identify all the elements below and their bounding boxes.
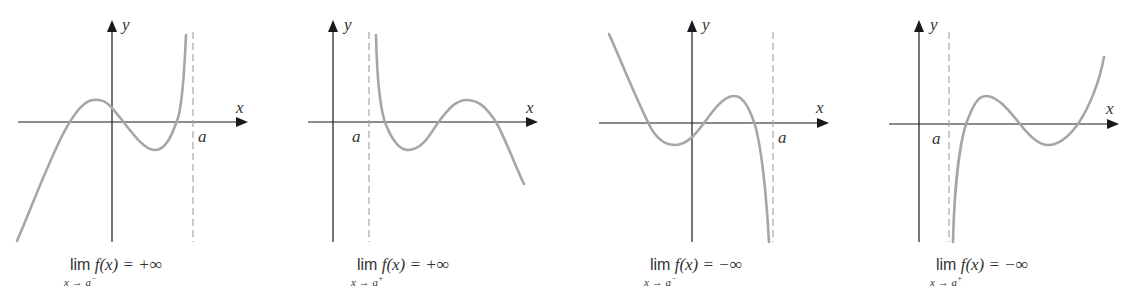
x-label: x [525,98,534,117]
caption-3: lim x → a− f(x) = −∞ [650,255,742,275]
caption-4: lim x → a+ f(x) = −∞ [936,255,1028,275]
a-label: a [198,127,207,146]
function-curve [17,35,186,241]
lim-text: lim [936,256,956,273]
a-label: a [778,128,787,147]
limit-expression: f(x) = −∞ [961,255,1028,274]
y-axis-arrow-icon [107,20,117,32]
panel-1: y x a [17,15,248,242]
caption-1: lim x → a− f(x) = +∞ [70,255,162,275]
limit-expression: f(x) = −∞ [675,255,742,274]
x-axis-arrow-icon [526,117,538,127]
limit-expression: f(x) = +∞ [382,255,449,274]
x-axis-arrow-icon [1107,119,1119,129]
y-label: y [700,15,710,34]
y-axis-arrow-icon [328,20,338,32]
a-label: a [352,127,361,146]
limit-subscript: x → a+ [930,274,962,288]
lim-text: lim [70,256,90,273]
lim-text: lim [357,256,377,273]
panel-3: y x a [599,15,829,242]
x-axis-arrow-icon [236,117,248,127]
y-axis-arrow-icon [687,20,697,32]
function-curve [953,57,1104,242]
a-label: a [932,129,941,148]
caption-2: lim x → a+ f(x) = +∞ [357,255,449,275]
x-label: x [1105,99,1114,118]
panel-4: y x a [889,15,1119,242]
function-curve [376,35,524,184]
y-label: y [120,15,130,34]
lim-text: lim [650,256,670,273]
limit-expression: f(x) = +∞ [95,255,162,274]
x-axis-arrow-icon [817,118,829,128]
limit-subscript: x → a+ [351,274,383,288]
y-axis-arrow-icon [914,20,924,32]
x-label: x [235,98,244,117]
y-label: y [928,15,938,34]
limit-subscript: x → a− [64,274,96,288]
y-label: y [342,15,352,34]
panel-2: y x a [308,15,538,242]
x-label: x [815,98,824,117]
limit-subscript: x → a− [644,274,676,288]
function-curve [609,34,769,242]
